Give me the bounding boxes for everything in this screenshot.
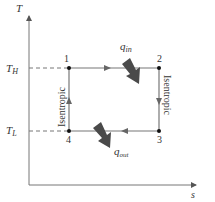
y-axis-label: T xyxy=(16,2,23,14)
ts-diagram: T s TH TL 1 2 3 4 Isentropic Isentropic … xyxy=(0,0,215,202)
tl-label: TL xyxy=(6,124,17,138)
state-label-3: 3 xyxy=(157,134,162,145)
state-point-3 xyxy=(157,129,161,133)
state-point-1 xyxy=(67,66,71,70)
arrow-left-icon xyxy=(121,128,128,134)
arrow-down-icon xyxy=(156,98,162,105)
th-label: TH xyxy=(6,62,19,76)
heat-in-label: qin xyxy=(120,40,132,54)
heat-in-arrow-icon xyxy=(122,58,140,84)
state-label-4: 4 xyxy=(66,134,71,145)
heat-out-arrow-icon xyxy=(93,122,111,148)
isentropic-label-left: Isentropic xyxy=(56,86,67,127)
isentropic-label-right: Isentropic xyxy=(162,75,173,116)
arrow-right-icon xyxy=(104,65,111,71)
x-axis-label: s xyxy=(191,189,195,200)
state-point-4 xyxy=(67,129,71,133)
heat-out-label: qout xyxy=(114,145,130,159)
state-label-1: 1 xyxy=(64,53,69,64)
state-point-2 xyxy=(157,66,161,70)
state-label-2: 2 xyxy=(157,53,162,64)
